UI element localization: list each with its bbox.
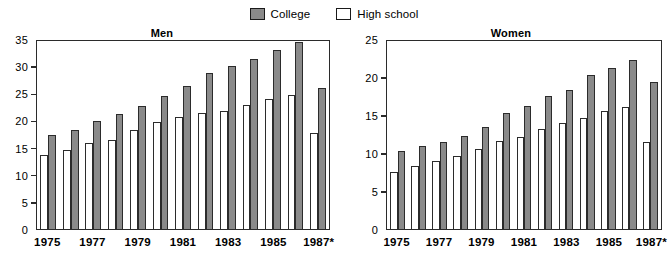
y-tick-label: 5 xyxy=(22,197,31,209)
bar-group-1984 xyxy=(239,41,261,229)
bar-group-1986 xyxy=(619,41,640,229)
legend-swatch-high-school-icon xyxy=(336,8,351,20)
bar-high-school-1984 xyxy=(243,105,251,229)
bar-high-school-1979 xyxy=(475,149,482,229)
bar-high-school-1981 xyxy=(517,137,524,229)
bar-group-1979 xyxy=(471,41,492,229)
x-tick-label-1985: 1985 xyxy=(260,233,286,251)
y-tick-5: 5 xyxy=(372,187,386,197)
bar-college-1986 xyxy=(629,60,636,229)
bar-high-school-1985 xyxy=(265,99,273,229)
bar-high-school-1978 xyxy=(108,140,116,229)
plot-frame-men xyxy=(36,40,330,230)
y-axis-women: 0510152025 xyxy=(352,40,386,230)
bar-college-1979 xyxy=(482,127,489,229)
bar-high-school-1982 xyxy=(198,113,206,229)
bar-group-1983 xyxy=(556,41,577,229)
y-tick-15: 15 xyxy=(15,144,36,154)
chart-legend: College High school xyxy=(0,4,668,24)
bar-group-1978 xyxy=(450,41,471,229)
y-tick-25: 25 xyxy=(15,89,36,99)
x-tick-label-1975: 1975 xyxy=(383,233,409,251)
bar-group-1982 xyxy=(194,41,216,229)
bar-high-school-1979 xyxy=(130,130,138,229)
bar-group-1980 xyxy=(149,41,171,229)
bar-college-1976 xyxy=(71,130,79,229)
y-tick-label: 10 xyxy=(15,170,31,182)
y-axis-men: 05101520253035 xyxy=(2,40,36,230)
y-tick-label: 20 xyxy=(365,72,381,84)
bar-high-school-1987star xyxy=(643,142,650,229)
bar-high-school-1986 xyxy=(288,95,296,229)
x-tick-label-1981: 1981 xyxy=(511,233,537,251)
chart-title-women: Women xyxy=(352,26,668,40)
y-tick-label: 25 xyxy=(15,88,31,100)
bar-high-school-1985 xyxy=(601,111,608,229)
bar-high-school-1977 xyxy=(432,161,439,229)
bar-college-1981 xyxy=(183,86,191,229)
bar-college-1977 xyxy=(93,121,101,229)
y-tick-label: 10 xyxy=(365,148,381,160)
legend-item-college: College xyxy=(250,8,311,20)
bar-college-1987star xyxy=(318,88,326,229)
bar-group-1986 xyxy=(284,41,306,229)
bar-college-1984 xyxy=(587,75,594,229)
y-tick-15: 15 xyxy=(365,111,386,121)
y-tick-20: 20 xyxy=(15,116,36,126)
y-tick-10: 10 xyxy=(365,149,386,159)
bar-college-1979 xyxy=(138,106,146,229)
x-tick-label-1975: 1975 xyxy=(34,233,60,251)
bar-group-1987star xyxy=(640,41,661,229)
chart-title-men: Men xyxy=(2,26,336,40)
bar-college-1978 xyxy=(461,136,468,229)
bar-college-1981 xyxy=(524,106,531,229)
y-tick-label: 25 xyxy=(365,34,381,46)
bar-college-1987star xyxy=(650,82,657,229)
bar-group-1979 xyxy=(127,41,149,229)
x-tick-label-1983: 1983 xyxy=(215,233,241,251)
bar-college-1983 xyxy=(228,66,236,229)
x-tick-label-1987star: 1987* xyxy=(303,233,334,251)
bar-group-1975 xyxy=(37,41,59,229)
bar-group-1975 xyxy=(387,41,408,229)
bar-group-1976 xyxy=(59,41,81,229)
plot-area-men: 0510152025303519751977197919811983198519… xyxy=(2,40,336,252)
bar-college-1985 xyxy=(273,50,281,229)
x-tick-label-1977: 1977 xyxy=(426,233,452,251)
y-tick-30: 30 xyxy=(15,62,36,72)
x-axis-women: 1975197719791981198319851987* xyxy=(352,233,668,251)
chart-panel-men: Men 051015202530351975197719791981198319… xyxy=(2,26,336,279)
bar-college-1982 xyxy=(206,73,214,229)
plot-frame-women xyxy=(386,40,662,230)
x-tick-label-1981: 1981 xyxy=(170,233,196,251)
bar-high-school-1976 xyxy=(63,150,71,229)
chart-panel-women: Women 0510152025197519771979198119831985… xyxy=(352,26,668,279)
bar-high-school-1983 xyxy=(220,111,228,229)
bar-high-school-1975 xyxy=(390,172,397,229)
x-tick-label-1977: 1977 xyxy=(79,233,105,251)
bar-group-1987star xyxy=(307,41,329,229)
bar-group-1984 xyxy=(577,41,598,229)
bar-college-1983 xyxy=(566,90,573,229)
bar-group-1983 xyxy=(217,41,239,229)
bar-college-1985 xyxy=(608,68,615,229)
bar-high-school-1976 xyxy=(411,166,418,229)
bar-group-1985 xyxy=(262,41,284,229)
bar-high-school-1980 xyxy=(153,122,161,229)
legend-label-high-school: High school xyxy=(357,8,418,20)
bar-college-1982 xyxy=(545,96,552,229)
bar-groups xyxy=(37,41,329,229)
y-tick-20: 20 xyxy=(365,73,386,83)
x-tick-label-1979: 1979 xyxy=(468,233,494,251)
legend-item-high-school: High school xyxy=(336,8,418,20)
y-tick-label: 35 xyxy=(15,34,31,46)
bar-high-school-1980 xyxy=(496,141,503,229)
y-tick-label: 20 xyxy=(15,115,31,127)
bar-high-school-1977 xyxy=(85,143,93,229)
y-tick-10: 10 xyxy=(15,171,36,181)
bar-high-school-1981 xyxy=(175,117,183,229)
bar-college-1984 xyxy=(250,59,258,229)
bar-high-school-1975 xyxy=(40,155,48,229)
bar-college-1975 xyxy=(398,151,405,229)
y-tick-label: 30 xyxy=(15,61,31,73)
